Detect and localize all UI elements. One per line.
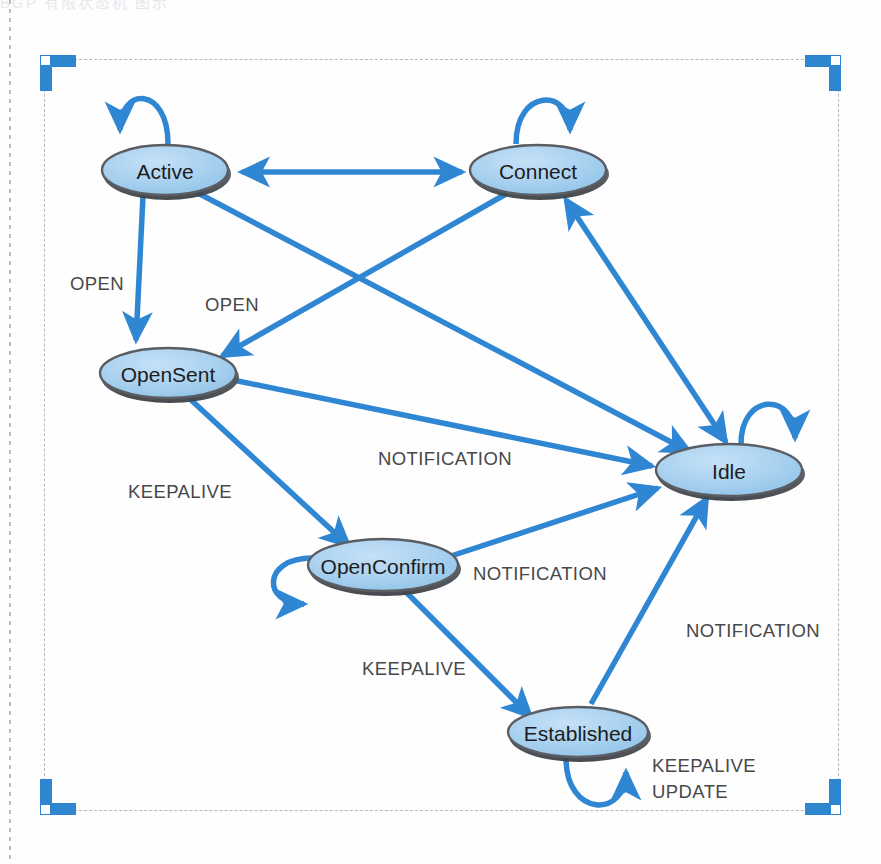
edge-label-update-self: UPDATE xyxy=(652,781,728,802)
edge-label-notification-openconfirm: NOTIFICATION xyxy=(473,563,607,584)
diagram-svg-root: Active Connect OpenSent Idle xyxy=(0,0,881,864)
edge-label-keepalive-openconfirm: KEEPALIVE xyxy=(362,658,466,679)
edge-label-open-connect: OPEN xyxy=(205,294,259,315)
bgp-state-machine-diagram[interactable]: Active Connect OpenSent Idle xyxy=(0,0,881,864)
node-idle-label: Idle xyxy=(712,460,746,483)
node-opensent-label: OpenSent xyxy=(121,363,216,386)
edge-openconfirm-established[interactable] xyxy=(404,590,531,717)
node-established[interactable]: Established xyxy=(508,707,651,762)
node-connect[interactable]: Connect xyxy=(470,145,609,200)
node-established-label: Established xyxy=(524,722,633,745)
edge-label-keepalive-opensent: KEEPALIVE xyxy=(128,481,232,502)
edge-established-idle[interactable] xyxy=(591,498,707,704)
edge-openconfirm-idle[interactable] xyxy=(451,488,658,556)
edge-established-self-loop[interactable] xyxy=(566,758,626,805)
scanned-page: BGP 有限状态机 图示 xyxy=(0,0,881,864)
node-idle[interactable]: Idle xyxy=(656,444,805,501)
node-openconfirm-label: OpenConfirm xyxy=(321,555,446,578)
node-opensent[interactable]: OpenSent xyxy=(100,348,239,403)
edge-active-self-loop[interactable] xyxy=(120,99,168,144)
edge-idle-self-loop[interactable] xyxy=(741,404,795,444)
edge-connect-self-loop[interactable] xyxy=(516,100,570,144)
node-connect-label: Connect xyxy=(499,160,577,183)
edge-active-opensent[interactable] xyxy=(136,196,143,340)
edge-label-notification-opensent: NOTIFICATION xyxy=(378,448,512,469)
edge-label-open-active: OPEN xyxy=(70,273,124,294)
edge-label-keepalive-self: KEEPALIVE xyxy=(652,755,756,776)
node-active[interactable]: Active xyxy=(102,145,231,200)
edge-opensent-openconfirm[interactable] xyxy=(190,399,349,546)
edge-openconfirm-self-loop[interactable] xyxy=(273,558,312,604)
edge-label-notification-established: NOTIFICATION xyxy=(686,620,820,641)
node-active-label: Active xyxy=(136,160,193,183)
node-openconfirm[interactable]: OpenConfirm xyxy=(308,539,461,596)
edge-connect-idle[interactable] xyxy=(566,200,726,442)
